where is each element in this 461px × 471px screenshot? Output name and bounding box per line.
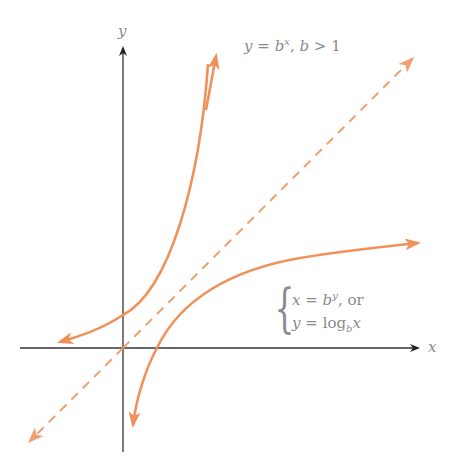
identity-line-upper (123, 59, 412, 348)
log-label-line2: y = logbx (292, 314, 361, 334)
logarithm-curve-lower (133, 348, 157, 425)
exp-cond-val: 1 (331, 37, 341, 55)
log-l2-log: log (323, 314, 346, 332)
log-l2-eq: = (305, 314, 318, 332)
x-axis-label: x (428, 338, 436, 356)
exponential-label: y = bx, b > 1 (244, 36, 341, 55)
exp-base: b (275, 37, 285, 55)
exp-sep: , (290, 37, 295, 55)
exp-eq: = (257, 37, 270, 55)
exp-cond-op: > (314, 37, 327, 55)
log-label-line1: x = by, or (292, 290, 364, 309)
log-l1-base: b (323, 291, 333, 309)
log-l2-arg: x (352, 314, 360, 332)
log-l1-lhs: x (292, 291, 300, 309)
exp-cond-var: b (299, 37, 309, 55)
log-l1-tail: , or (338, 291, 364, 309)
exponential-curve (60, 64, 208, 342)
exp-lhs: y (244, 37, 252, 55)
graph-canvas (0, 0, 461, 471)
y-axis-label: y (118, 22, 126, 40)
log-l2-lhs: y (292, 314, 300, 332)
identity-line (30, 348, 123, 441)
log-l1-eq: = (305, 291, 318, 309)
